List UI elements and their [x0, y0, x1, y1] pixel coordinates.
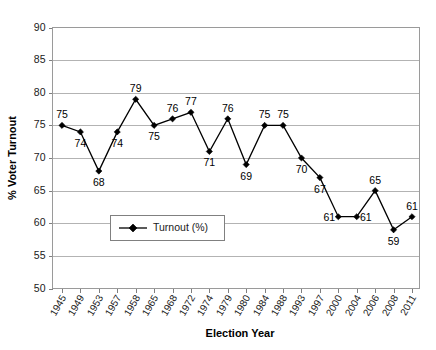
- y-tick-label: 60: [34, 216, 46, 228]
- data-point-label: 61: [323, 211, 335, 223]
- data-point-label: 74: [75, 137, 87, 149]
- data-point-label: 75: [277, 108, 289, 120]
- x-tick-label: 1974: [195, 293, 216, 318]
- y-tick-label: 80: [34, 86, 46, 98]
- data-point-marker: [243, 161, 249, 167]
- chart-legend: Turnout (%): [111, 216, 225, 241]
- chart-canvas: 505560657075808590 194519491953195719581…: [0, 0, 436, 350]
- x-tick-label: 1949: [66, 293, 87, 318]
- x-tick-label: 1993: [287, 293, 308, 318]
- x-tick-label: 1972: [177, 293, 198, 318]
- y-tick-label: 75: [34, 118, 46, 130]
- y-axis-tick-labels: 505560657075808590: [34, 21, 46, 294]
- x-tick-label: 1988: [269, 293, 290, 318]
- x-tick-label: 2000: [324, 293, 345, 318]
- data-point-marker: [169, 116, 175, 122]
- x-tick-label: 1957: [103, 293, 124, 318]
- x-tick-label: 1997: [306, 293, 327, 318]
- x-tick-label: 1958: [122, 293, 143, 318]
- data-point-marker: [114, 129, 120, 135]
- data-point-marker: [206, 148, 212, 154]
- data-point-label: 71: [204, 156, 216, 168]
- x-tick-label: 2006: [361, 293, 382, 318]
- data-point-label: 67: [314, 183, 326, 195]
- y-tick-label: 65: [34, 184, 46, 196]
- data-point-marker: [188, 109, 194, 115]
- data-point-marker: [96, 168, 102, 174]
- y-axis-title: % Voter Turnout: [6, 116, 18, 200]
- data-point-label: 61: [406, 200, 418, 212]
- data-point-label: 75: [259, 108, 271, 120]
- data-point-label: 68: [93, 176, 105, 188]
- data-point-marker: [280, 122, 286, 128]
- data-point-marker: [225, 116, 231, 122]
- y-tick-label: 55: [34, 249, 46, 261]
- x-tick-label: 1965: [140, 293, 161, 318]
- y-tick-label: 85: [34, 53, 46, 65]
- data-point-label: 61: [360, 211, 372, 223]
- x-tick-label: 1945: [48, 293, 69, 318]
- data-point-label: 75: [148, 130, 160, 142]
- x-axis-tick-labels: 1945194919531957195819651968197219741979…: [48, 293, 419, 318]
- x-tick-label: 1953: [85, 293, 106, 318]
- voter-turnout-line-chart: 505560657075808590 194519491953195719581…: [0, 0, 436, 350]
- data-point-label: 75: [56, 108, 68, 120]
- x-tick-label: 2004: [343, 293, 364, 318]
- x-tick-label: 2011: [398, 293, 418, 318]
- data-point-marker: [335, 214, 341, 220]
- data-point-label: 65: [369, 174, 381, 186]
- data-point-marker: [77, 129, 83, 135]
- data-point-marker: [262, 122, 268, 128]
- data-point-label: 76: [167, 102, 179, 114]
- gridlines-group: [53, 61, 420, 257]
- y-tick-label: 90: [34, 21, 46, 33]
- x-tick-label: 1980: [232, 293, 253, 318]
- data-point-label: 76: [222, 102, 234, 114]
- data-point-label: 79: [130, 82, 142, 94]
- data-point-marker: [59, 122, 65, 128]
- legend-label-turnout: Turnout (%): [153, 221, 208, 233]
- x-tick-label: 1979: [214, 293, 235, 318]
- data-point-label: 69: [240, 170, 252, 182]
- x-tick-label: 1984: [251, 293, 272, 318]
- x-axis-title: Election Year: [206, 327, 276, 339]
- x-tick-label: 1968: [159, 293, 180, 318]
- x-tick-label: 2008: [380, 293, 401, 318]
- y-tick-label: 50: [34, 282, 46, 294]
- data-point-label: 59: [388, 235, 400, 247]
- data-point-label: 70: [296, 163, 308, 175]
- y-tick-label: 70: [34, 151, 46, 163]
- data-point-label: 77: [185, 95, 197, 107]
- data-point-label: 74: [111, 137, 123, 149]
